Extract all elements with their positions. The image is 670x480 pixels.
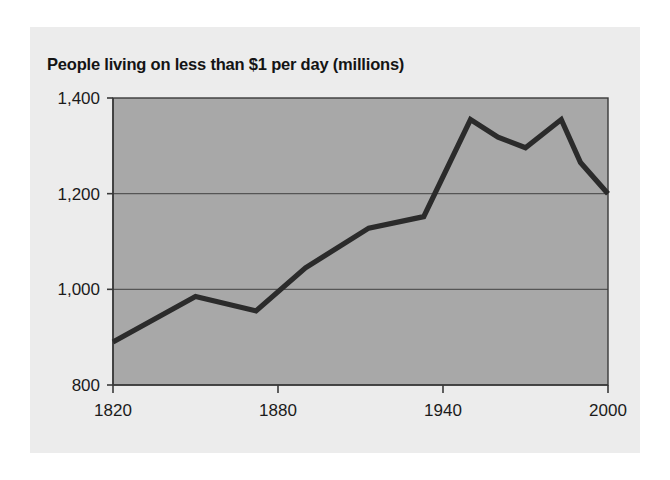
x-tick-label: 2000 <box>589 401 627 420</box>
chart-figure: People living on less than $1 per day (m… <box>0 0 670 480</box>
y-tick-label: 800 <box>72 376 100 395</box>
y-axis-ticks <box>107 98 113 385</box>
x-axis-tick-labels: 1820188019402000 <box>94 401 627 420</box>
x-axis-ticks <box>113 385 608 393</box>
y-tick-label: 1,400 <box>57 89 100 108</box>
x-tick-label: 1940 <box>424 401 462 420</box>
y-axis-tick-labels: 8001,0001,2001,400 <box>57 89 100 395</box>
x-tick-label: 1820 <box>94 401 132 420</box>
y-tick-label: 1,000 <box>57 280 100 299</box>
x-tick-label: 1880 <box>259 401 297 420</box>
plot-area: 8001,0001,2001,400 1820188019402000 <box>0 0 670 480</box>
y-tick-label: 1,200 <box>57 185 100 204</box>
